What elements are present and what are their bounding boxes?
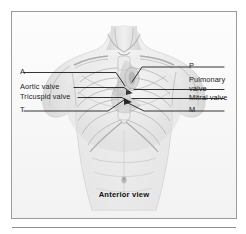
torso-body <box>43 26 205 210</box>
label-tricuspid-valve: Tricuspid valve <box>20 93 71 102</box>
label-mitral-valve: Mitral valve <box>189 94 228 103</box>
figure-caption: Anterior view <box>12 190 236 199</box>
label-t-point: T <box>20 106 25 115</box>
figure-root: A Aortic valve Tricuspid valve T P Pulmo… <box>0 0 246 234</box>
label-a-point: A <box>20 68 25 77</box>
label-pulmonary-valve-line2: valve <box>189 85 207 94</box>
label-p-point: P <box>189 62 194 71</box>
label-aortic-valve: Aortic valve <box>20 83 59 92</box>
torso-illustration <box>12 12 236 218</box>
illustration-frame: A Aortic valve Tricuspid valve T P Pulmo… <box>11 11 237 219</box>
bottom-divider <box>12 227 236 228</box>
label-m-point: M <box>189 106 195 115</box>
